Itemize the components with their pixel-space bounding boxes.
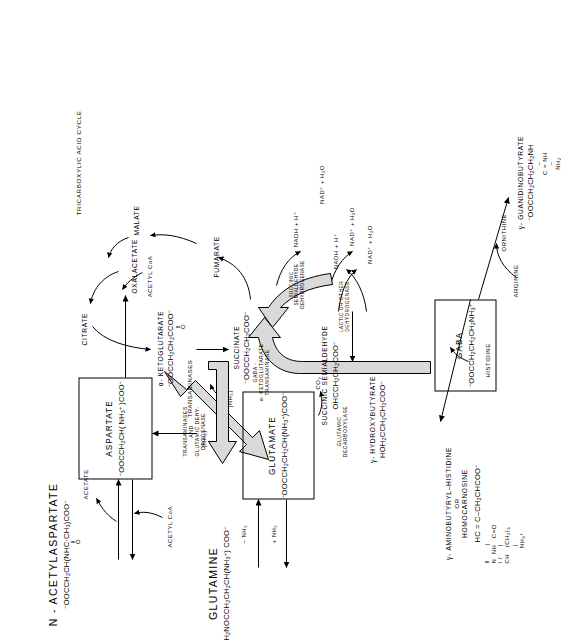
nh3-minus-label: – NH₃ <box>240 524 246 543</box>
n-acetylaspartate-label: N - ACETYLASPARTATE <box>46 479 58 629</box>
glutamine-label: GLUTAMINE <box>206 523 218 643</box>
gamma-guanidinobutyrate-label: γ- GUANIDINOBUTYRATE <box>516 117 523 247</box>
homocarnosine: γ- AMINOBUTYRYL–HISTIDINE OR HOMOCARNOSI… <box>444 419 526 587</box>
gaba-akg-transaminase-label: GABA - α- KETOGLUTARATE TRANSAMINASE <box>252 327 270 417</box>
homocarnosine-or: OR <box>453 419 461 587</box>
co2-label: CO₂ <box>314 376 320 389</box>
citrate-label: CITRATE <box>80 312 87 345</box>
acetate-label: ACETATE <box>82 469 88 499</box>
glutamine: GLUTAMINE H2NOCCH2CH2CH(NH3+) COO− <box>206 523 231 643</box>
alpha-ketoglutarate-label: α- KETOGLUTARATE <box>156 293 163 403</box>
gaba-formula: −OOCCH2CH2CH2NH3+ <box>466 303 476 386</box>
glutamate-formula: −OOCCH2CH2CH(NH3+)COO− <box>279 392 289 499</box>
homocarnosine-formula: HC = C–CH2CHCOO− <box>472 419 483 587</box>
ornithine-label: ORNITHINE <box>500 214 506 252</box>
ssadh-label: SUCCINIC SEMIALDEHYDE DEHYDROGENASE <box>288 251 304 317</box>
homocarnosine-alt-label: HOMOCARNOSINE <box>460 419 469 587</box>
tca-cycle-label: TRICARBOXYLIC ACID CYCLE <box>74 135 81 215</box>
arginine-label: ARGININE <box>512 264 518 297</box>
malate-label: MALATE <box>132 205 139 235</box>
nadh-h-top-label: NADH + H⁺ <box>292 203 299 255</box>
n-acetylaspartate-formula-note: O <box>74 538 80 543</box>
histidine-label: HISTIDINE <box>484 343 490 377</box>
transaminases-gdh-label: TRANSAMINASES AND GLUTAMIC DEHY- DROGENA… <box>182 383 205 479</box>
glutamine-formula: H2NOCCH2CH2CH(NH3+) COO− <box>221 523 231 643</box>
fumarate-label: FUMARATE <box>212 236 219 277</box>
succinate-label: SUCCINATE <box>232 297 239 397</box>
aspartate-label: ASPARTATE <box>104 400 113 457</box>
succinic-semialdehyde-label: SUCCINIC SEMIALDEHYDE <box>320 319 328 431</box>
nh3-plus-label: + NH₃ <box>270 524 276 543</box>
aspartate-formula: −OOCCH2CH( NH3+ )COO− <box>116 380 126 476</box>
acetyl-coa-cycle-label: ACETYL CoA <box>146 253 152 299</box>
gamma-hydroxybutyrate-formula: HOH2CCH2CH2COO− <box>377 357 387 481</box>
gaba-label: GABA <box>454 331 463 358</box>
nh3-bracket-glu-label: [NH₃] <box>226 390 232 407</box>
alpha-ketoglutarate: α- KETOGLUTARATE −OOCCH2CH2CCOO− ‖O <box>156 293 185 403</box>
nad-h2o-top-label: NAD⁺ + H₂O <box>348 197 355 255</box>
nad-h2o-bl-label: NAD⁺ + H₂O <box>366 215 373 273</box>
gamma-hydroxybutyrate: γ- HYDROXYBUTYRATE HOH2CCH2CH2COO− <box>368 357 387 481</box>
gamma-guanidinobutyrate: γ- GUANIDINOBUTYRATE −OOCCH2CH2CH2NH – C… <box>516 117 561 247</box>
glutamic-decarboxylase-label: GLUTAMIC DECARBOXYLASE <box>336 393 348 469</box>
alpha-ketoglutarate-formula: −OOCCH2CH2CCOO− <box>165 293 175 403</box>
gamma-hydroxybutyrate-label: γ- HYDROXYBUTYRATE <box>368 357 375 481</box>
homocarnosine-label: γ- AMINOBUTYRYL–HISTIDINE <box>444 419 453 587</box>
lactic-dehydrogenase-label: LACTIC OR OTHER DEHYDROGENASE <box>338 269 349 343</box>
n-acetylaspartate-formula: −OOCCH2CH(NHC·CH3)COO− <box>61 479 71 629</box>
nad-h2o-br-label: NAD⁺ + H₂O <box>318 155 325 213</box>
succinate: SUCCINATE −OOCCH2CH2COO− <box>232 297 251 397</box>
n-acetylaspartate: N - ACETYLASPARTATE −OOCCH2CH(NHC·CH3)CO… <box>46 479 80 629</box>
guanidinobutyrate-line3: NH2 <box>554 117 561 209</box>
guanidinobutyrate-line2: C = NH <box>541 117 547 209</box>
gamma-guanidinobutyrate-formula: −OOCCH2CH2CH2NH <box>525 117 535 247</box>
oxalacetate-label: OXALACETATE <box>130 238 137 293</box>
glutamate-label: GLUTAMATE <box>267 416 276 475</box>
alpha-ketoglutarate-formula-note: O <box>179 323 185 328</box>
box-aspartate: ASPARTATE −OOCCH2CH( NH3+ )COO− <box>78 377 152 479</box>
succinate-formula: −OOCCH2CH2COO− <box>241 297 251 397</box>
acetyl-coa-top-label: ACETYL CoA <box>166 506 172 547</box>
